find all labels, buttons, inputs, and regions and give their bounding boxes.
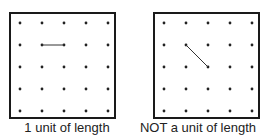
caption-right: NOT a unit of length xyxy=(128,120,267,135)
segment-diagonal xyxy=(186,45,208,67)
caption-left: 1 unit of length xyxy=(0,120,137,135)
geoboard-left xyxy=(9,12,116,119)
figure-not-unit-length: NOT a unit of length xyxy=(134,0,267,140)
dot-grid-left xyxy=(11,14,114,117)
figure-unit-length: 1 unit of length xyxy=(0,0,133,140)
geoboard-right xyxy=(153,12,260,119)
dot-grid-right xyxy=(155,14,258,117)
